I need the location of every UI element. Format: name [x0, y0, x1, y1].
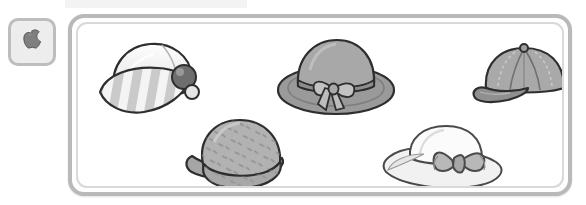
apple-tool-button[interactable] [8, 18, 56, 66]
hats-gallery-panel-inner [76, 22, 564, 188]
screenshot-root [0, 0, 586, 205]
white-hat-with-large-bow[interactable] [376, 116, 516, 188]
baseball-cap[interactable] [468, 40, 564, 114]
apple-icon [15, 25, 49, 59]
hat-bow-large [434, 152, 485, 172]
cap-button-small [185, 85, 199, 99]
dotted-cloche-hat[interactable] [178, 112, 302, 188]
hats-gallery-panel[interactable] [68, 14, 572, 196]
wide-brim-sun-hat-with-bow[interactable] [274, 30, 402, 118]
apple-tool-button-inner [12, 22, 52, 62]
top-strip [65, 0, 247, 8]
